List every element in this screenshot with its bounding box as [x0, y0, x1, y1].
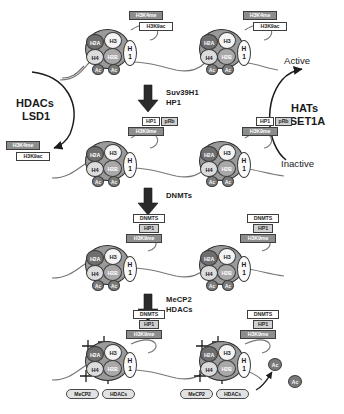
- histone-h3: H3: [218, 32, 236, 49]
- enzyme-mecp2: MeCP2: [166, 295, 192, 304]
- acetyl-group: Ac: [206, 280, 218, 291]
- mark-label: HP1: [144, 225, 154, 231]
- histone-h1-label-bottom: 1: [124, 365, 136, 373]
- mark-hp1-row4-right: HP1: [253, 320, 273, 329]
- histone-h2a-label: H2A: [90, 352, 100, 358]
- acetyl-label: Ac: [225, 284, 231, 289]
- histone-h2a: H2A: [200, 346, 218, 362]
- acetyl-group: Ac: [222, 280, 234, 291]
- acetyl-label: Ac: [111, 68, 117, 73]
- mark-h3k9me-row2-left: H3K9me: [128, 127, 164, 136]
- histone-h2a: H2A: [200, 34, 218, 50]
- histone-h3-label: H3: [223, 350, 230, 356]
- histone-h1-label-bottom: 1: [238, 365, 250, 373]
- acetyl-label: Ac: [209, 284, 215, 289]
- histone-h1: H 1: [123, 352, 137, 378]
- histone-h3-label: H3: [109, 350, 116, 356]
- enzyme-hdacs: HDACs: [166, 305, 193, 314]
- histone-h2a: H2A: [86, 346, 104, 362]
- acetyl-group: Ac: [92, 176, 104, 187]
- histone-h4: H4: [200, 361, 218, 377]
- histone-h4-label: H4: [92, 271, 99, 277]
- complex-mecp2-right: MeCP2: [180, 389, 213, 399]
- histone-h3: H3: [218, 344, 236, 361]
- histone-h1-label-bottom: 1: [124, 269, 136, 277]
- acetyl-group: Ac: [92, 280, 104, 291]
- mark-label: DNMTS: [254, 311, 272, 317]
- acetyl-label: Ac: [225, 180, 231, 185]
- histone-h1-label-bottom: 1: [238, 269, 250, 277]
- histone-h1-label-bottom: 1: [124, 53, 136, 61]
- histone-h2b-label: H2B: [107, 366, 117, 372]
- enzyme-hp1: HP1: [166, 98, 181, 107]
- mark-label: H3K9me: [134, 331, 155, 337]
- mark-h3k9me-row2-right: H3K9me: [242, 127, 278, 136]
- histone-h2a-label: H2A: [90, 152, 100, 158]
- complex-mecp2-left: MeCP2: [66, 389, 99, 399]
- mark-label: DNMTS: [254, 215, 272, 221]
- mark-label: H3K9ac: [261, 23, 280, 29]
- histone-h1: H 1: [123, 152, 137, 178]
- mark-label: DNMTS: [140, 311, 158, 317]
- histone-h1-label-bottom: 1: [124, 165, 136, 173]
- nucleosome-row3-left: H2A H3 H4 H2B H 1 Ac Ac: [84, 244, 146, 296]
- mark-label: HP1: [258, 321, 268, 327]
- mark-label: H3K9ac: [147, 23, 166, 29]
- histone-h3: H3: [218, 144, 236, 161]
- histone-h3-label: H3: [223, 38, 230, 44]
- acetyl-group: Ac: [222, 64, 234, 75]
- acetyl-group: Ac: [206, 176, 218, 187]
- histone-h3: H3: [104, 144, 122, 161]
- histone-h2a: H2A: [86, 250, 104, 266]
- histone-h4-label: H4: [206, 55, 213, 61]
- mark-dnmts-row4: DNMTS: [133, 310, 165, 319]
- histone-h2b-label: H2B: [221, 166, 231, 172]
- acetyl-label: Ac: [225, 68, 231, 73]
- acetyl-label: Ac: [272, 362, 278, 368]
- acetyl-label: Ac: [292, 379, 298, 385]
- histone-h2b: H2B: [217, 360, 236, 377]
- nucleosome-row2-left: H2A H3 H4 H2B H 1 Ac Ac: [84, 140, 146, 192]
- nucleosome-row4-left: H2A H3 H4 H2B H 1: [84, 340, 146, 392]
- acetyl-group: Ac: [222, 176, 234, 187]
- histone-h2a-label: H2A: [90, 256, 100, 262]
- histone-h4: H4: [86, 361, 104, 377]
- histone-h2b: H2B: [103, 160, 122, 177]
- complex-hdacs-right: HDACs: [216, 389, 249, 399]
- mark-h3k4me-row1-right: H3K4me: [243, 11, 277, 20]
- mark-dnmts-row3-left: DNMTS: [133, 214, 165, 223]
- histone-h1: H 1: [237, 152, 251, 178]
- mark-label: DNMTS: [140, 215, 158, 221]
- mark-label: pRb: [279, 118, 289, 124]
- histone-h2b: H2B: [103, 360, 122, 377]
- histone-h1: H 1: [123, 40, 137, 66]
- histone-h2a-label: H2A: [204, 40, 214, 46]
- histone-h4-label: H4: [206, 167, 213, 173]
- mark-label: H3K9me: [134, 235, 155, 241]
- complex-label: MeCP2: [188, 391, 205, 397]
- histone-h1-label-bottom: 1: [238, 165, 250, 173]
- mark-label: H3K9me: [250, 128, 271, 134]
- histone-h1-label-top: H: [238, 45, 250, 53]
- histone-h4-label: H4: [206, 367, 213, 373]
- mark-label: H3K9me: [248, 235, 269, 241]
- left-pathway-line1: HDACs: [16, 97, 54, 111]
- histone-h1-label-top: H: [238, 261, 250, 269]
- histone-h1-label-top: H: [124, 357, 136, 365]
- histone-h2a: H2A: [200, 146, 218, 162]
- mark-hp1-row2-left: HP1: [142, 117, 160, 126]
- acetyl-group: Ac: [108, 280, 120, 291]
- histone-h1-label-top: H: [238, 157, 250, 165]
- acetyl-group: Ac: [206, 64, 218, 75]
- histone-h2b: H2B: [217, 264, 236, 281]
- mark-h3k9ac-row1-right: H3K9ac: [253, 22, 287, 31]
- histone-h1-label-top: H: [124, 45, 136, 53]
- histone-h4: H4: [200, 265, 218, 281]
- histone-h4-label: H4: [92, 367, 99, 373]
- histone-h3-label: H3: [223, 254, 230, 260]
- acetyl-label: Ac: [95, 284, 101, 289]
- mark-label: HP1: [146, 118, 156, 124]
- histone-h2a-label: H2A: [204, 352, 214, 358]
- histone-h2a-label: H2A: [90, 40, 100, 46]
- mark-label: H3K9me: [136, 128, 157, 134]
